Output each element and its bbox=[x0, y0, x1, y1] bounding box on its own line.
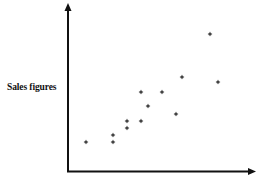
data-points bbox=[84, 32, 220, 144]
scatter-chart: Sales figures bbox=[0, 0, 261, 183]
x-axis-arrow-icon bbox=[248, 168, 256, 175]
x-axis bbox=[67, 168, 256, 175]
y-axis-label: Sales figures bbox=[7, 82, 56, 92]
y-axis bbox=[65, 3, 72, 171]
y-axis-arrow-icon bbox=[65, 3, 72, 11]
